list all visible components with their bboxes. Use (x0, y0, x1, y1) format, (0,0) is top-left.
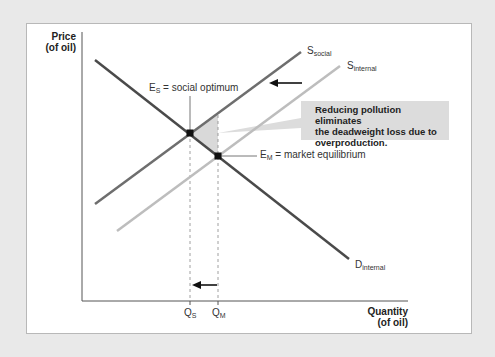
x-axis-title: Quantity (of oil) (340, 306, 408, 328)
qs-tick-label: QS (184, 307, 196, 322)
x-axis-title-line2: (of oil) (340, 317, 408, 328)
deadweight-loss-area (190, 115, 218, 156)
es-label: ES = social optimum (149, 82, 238, 97)
callout-line3: overproduction. (315, 137, 449, 148)
deadweight-loss-callout: Reducing pollution eliminates the deadwe… (301, 101, 449, 140)
callout-line1: Reducing pollution eliminates (315, 104, 449, 126)
y-axis-title-line1: Price (30, 31, 76, 42)
supply-shift-arrow-icon (269, 79, 302, 87)
s-internal-label: Sinternal (347, 60, 377, 75)
quantity-shift-arrow-icon (192, 281, 217, 289)
d-internal-label: Dinternal (355, 259, 385, 274)
callout-line2: the deadweight loss due to (315, 126, 449, 137)
x-axis-title-line1: Quantity (340, 306, 408, 317)
em-point (215, 153, 222, 160)
supply-demand-diagram (0, 0, 495, 357)
s-social-label: Ssocial (307, 45, 332, 60)
em-label: EM = market equilibrium (260, 149, 366, 164)
es-point (187, 130, 194, 137)
y-axis-title: Price (of oil) (30, 31, 76, 53)
y-axis-title-line2: (of oil) (30, 42, 76, 53)
qm-tick-label: QM (212, 307, 226, 322)
